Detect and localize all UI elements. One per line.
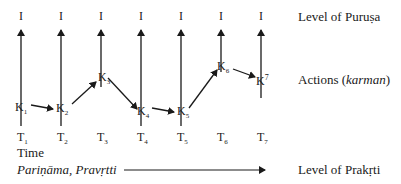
action-k5: K5 xyxy=(177,104,189,120)
top-marker-2: I xyxy=(59,9,63,24)
prakrti-level-label: Level of Prakṛti xyxy=(298,162,380,178)
time-tick-3: T3 xyxy=(97,130,108,146)
top-marker-6: I xyxy=(219,9,223,24)
purusa-level-label: Level of Puruṣa xyxy=(298,9,380,25)
action-k1: K1 xyxy=(15,100,27,116)
action-k6: K6 xyxy=(217,59,229,75)
action-k3: K3 xyxy=(98,70,110,86)
time-tick-1: T1 xyxy=(17,130,28,146)
diagram-lines xyxy=(0,0,401,184)
actions-label: Actions (karman) xyxy=(298,72,390,88)
action-k7: K7 xyxy=(256,73,269,89)
time-tick-2: T2 xyxy=(57,130,68,146)
top-marker-3: I xyxy=(99,9,103,24)
action-k2: K2 xyxy=(56,101,68,117)
karma-time-diagram: I I I I I I I K1 K2 K3 K4 K5 K6 K7 T1 T2… xyxy=(0,0,401,184)
time-tick-6: T6 xyxy=(217,130,228,146)
top-marker-1: I xyxy=(19,9,23,24)
top-marker-4: I xyxy=(139,9,143,24)
action-k4: K4 xyxy=(137,104,149,120)
time-axis-label: Time xyxy=(17,145,44,161)
time-tick-5: T5 xyxy=(177,130,188,146)
top-marker-7: I xyxy=(259,9,263,24)
time-tick-7: T7 xyxy=(257,130,268,146)
top-marker-5: I xyxy=(179,9,183,24)
process-label: Pariṇāma, Pravṛtti xyxy=(17,162,117,178)
time-tick-4: T4 xyxy=(137,130,148,146)
